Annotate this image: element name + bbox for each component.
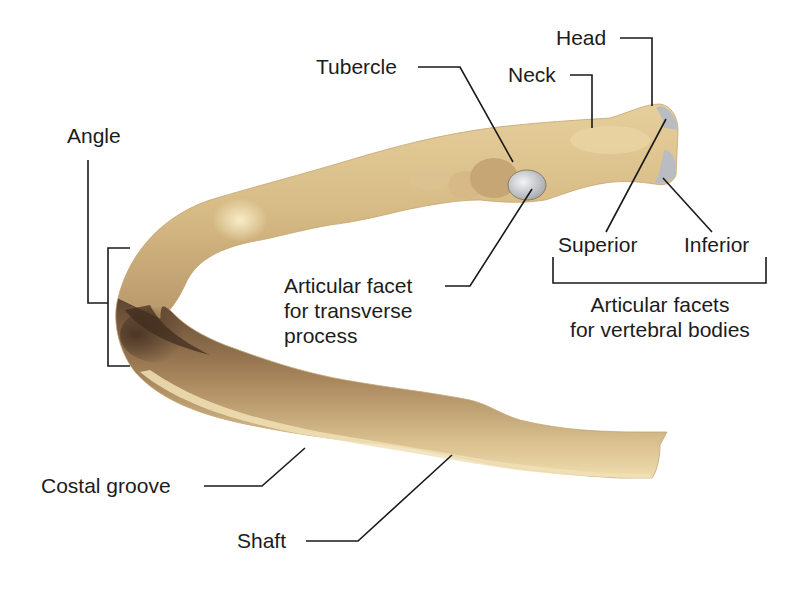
label-inferior: Inferior xyxy=(684,232,749,257)
label-articular-facets-vertebral: Articular facets for vertebral bodies xyxy=(546,292,774,342)
rib-diagram: Head Neck Tubercle Angle Articular facet… xyxy=(0,0,805,589)
label-tubercle: Tubercle xyxy=(316,54,397,79)
label-costal-groove: Costal groove xyxy=(41,473,171,498)
label-head: Head xyxy=(556,25,606,50)
label-superior: Superior xyxy=(558,232,637,257)
label-line: for vertebral bodies xyxy=(546,317,774,342)
label-neck: Neck xyxy=(508,62,556,87)
label-line: for transverse xyxy=(284,298,412,323)
label-line: Articular facet xyxy=(284,273,412,298)
label-angle: Angle xyxy=(67,123,121,148)
label-shaft: Shaft xyxy=(237,528,286,553)
label-line: Articular facets xyxy=(546,292,774,317)
label-articular-facet-transverse: Articular facet for transverse process xyxy=(284,273,412,348)
label-line: process xyxy=(284,323,412,348)
